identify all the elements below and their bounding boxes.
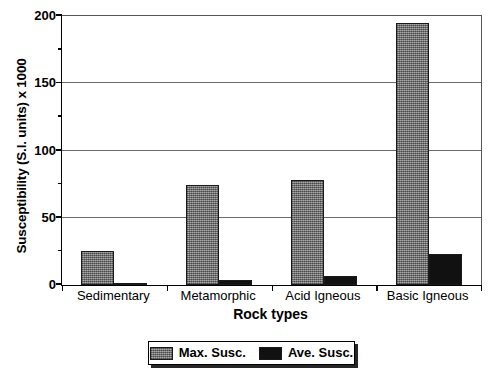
bar-acid-igneous-max	[291, 180, 324, 285]
bar-chart-figure: Susceptibility (S.I. units) x 1000 05010…	[0, 0, 502, 380]
y-tick-label-200: 200	[24, 9, 56, 22]
y-tick-200	[56, 14, 62, 16]
legend-entry-ave-susc: Ave. Susc.	[259, 346, 353, 360]
legend-swatch-max-susc	[150, 347, 173, 360]
legend-swatch-ave-susc	[259, 347, 282, 360]
y-tick-label-0: 0	[24, 278, 56, 291]
y-minor-tick-175	[58, 48, 62, 49]
x-axis-title: Rock types	[61, 306, 480, 323]
bar-sedimentary-max	[81, 251, 114, 285]
y-tick-100	[56, 149, 62, 151]
bar-sedimentary-ave	[114, 283, 147, 286]
legend-label-max-susc: Max. Susc.	[179, 346, 246, 360]
y-axis-tick-labels: 050100150200	[22, 0, 56, 380]
bar-basic-igneous-ave	[429, 254, 462, 285]
bar-basic-igneous-max	[396, 23, 429, 285]
x-axis-category-labels: SedimentaryMetamorphicAcid IgneousBasic …	[61, 288, 480, 306]
bar-acid-igneous-ave	[324, 276, 357, 285]
bar-metamorphic-max	[186, 185, 219, 285]
category-label-sedimentary: Sedimentary	[61, 288, 166, 303]
y-tick-label-50: 50	[24, 211, 56, 224]
chart-legend: Max. Susc.Ave. Susc.	[148, 341, 355, 365]
y-minor-tick-125	[58, 115, 62, 116]
x-tick-4	[481, 285, 482, 291]
legend-label-ave-susc: Ave. Susc.	[288, 346, 353, 360]
y-minor-tick-75	[58, 183, 62, 184]
legend-entry-max-susc: Max. Susc.	[150, 346, 246, 360]
category-label-acid-igneous: Acid Igneous	[271, 288, 376, 303]
y-tick-150	[56, 82, 62, 84]
y-tick-label-100: 100	[24, 144, 56, 157]
bar-metamorphic-ave	[219, 280, 252, 285]
y-minor-tick-25	[58, 250, 62, 251]
category-label-basic-igneous: Basic Igneous	[375, 288, 480, 303]
category-label-metamorphic: Metamorphic	[166, 288, 271, 303]
y-tick-label-150: 150	[24, 76, 56, 89]
y-tick-50	[56, 216, 62, 218]
plot-area	[61, 15, 482, 286]
